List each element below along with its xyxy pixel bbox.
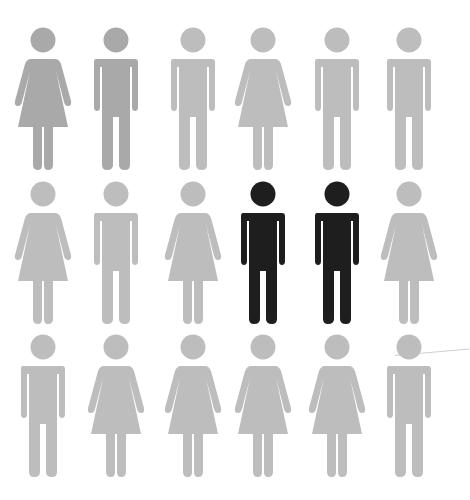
male-person-icon: [307, 181, 367, 326]
female-person-icon: [163, 181, 223, 326]
caption: Grid of 18 person pictograms, two highli…: [0, 0, 1, 1]
male-person-icon: [379, 27, 439, 172]
female-person-icon: [307, 334, 367, 479]
male-person-icon: [233, 181, 293, 326]
female-person-icon: [13, 181, 73, 326]
male-person-icon: [86, 27, 146, 172]
female-person-icon: [163, 334, 223, 479]
female-person-icon: [233, 27, 293, 172]
female-person-icon: [13, 27, 73, 172]
male-person-icon: [379, 334, 439, 479]
female-person-icon: [379, 181, 439, 326]
male-person-icon: [307, 27, 367, 172]
male-person-icon: [86, 181, 146, 326]
female-person-icon: [86, 334, 146, 479]
male-person-icon: [163, 27, 223, 172]
female-person-icon: [233, 334, 293, 479]
male-person-icon: [13, 334, 73, 479]
